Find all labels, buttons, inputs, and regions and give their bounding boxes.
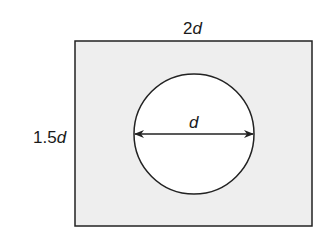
width-label: 2d bbox=[183, 19, 202, 38]
height-label: 1.5d bbox=[33, 128, 67, 147]
diagram-canvas: 2d 1.5d d bbox=[0, 0, 317, 235]
diameter-label: d bbox=[189, 113, 199, 132]
